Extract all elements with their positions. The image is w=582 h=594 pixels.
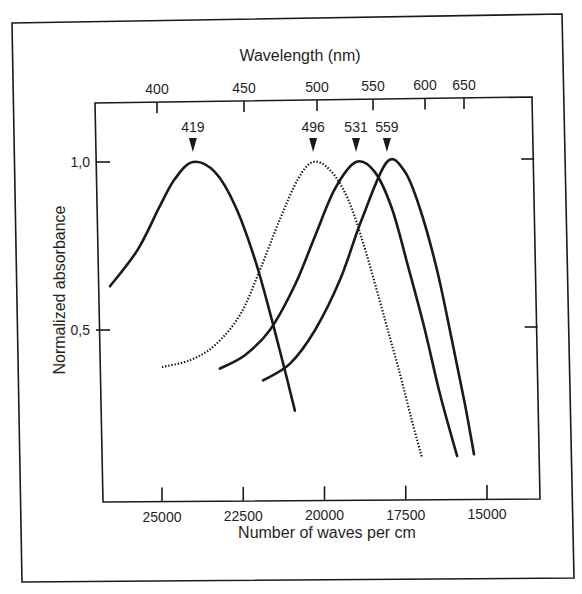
peak-arrow-icon (309, 138, 317, 152)
bottom-tick-label: 17500 (386, 507, 425, 523)
peak-label: 559 (375, 119, 399, 135)
top-tick-label: 650 (452, 77, 476, 93)
bottom-axis-title: Number of waves per cm (238, 524, 416, 541)
plot-frame (95, 97, 540, 502)
bottom-tick-label: 25000 (143, 509, 182, 525)
y-tick-label: 0,5 (71, 322, 91, 338)
top-tick-label: 500 (305, 79, 329, 95)
top-tick-label: 550 (361, 78, 385, 94)
peak-arrow-icon (352, 138, 360, 152)
absorbance-chart: Wavelength (nm) Number of waves per cm N… (0, 0, 582, 594)
outer-frame (12, 14, 574, 582)
bottom-tick-label: 22500 (224, 508, 263, 524)
bottom-tick-label: 15000 (468, 506, 507, 522)
curve-419 (110, 162, 295, 411)
top-tick-label: 600 (413, 77, 437, 93)
curve-531 (220, 161, 457, 456)
bottom-tick-label: 20000 (305, 507, 344, 523)
y-tick-label: 1,0 (71, 154, 91, 170)
top-axis-title: Wavelength (nm) (239, 47, 360, 64)
peak-label: 531 (344, 119, 368, 135)
top-tick-label: 450 (232, 80, 256, 96)
peak-arrow-icon (383, 138, 391, 152)
absorbance-curves (110, 159, 474, 458)
peak-arrow-icon (189, 138, 197, 152)
bottom-axis-ticks: 2500022500200001750015000 (143, 485, 507, 524)
curve-496 (162, 162, 422, 458)
top-axis-ticks: 400450500550600650 (145, 77, 476, 113)
top-tick-label: 400 (145, 81, 169, 97)
peak-label: 496 (301, 119, 325, 135)
peak-label: 419 (181, 119, 205, 135)
peak-markers: 419496531559 (181, 119, 399, 152)
y-axis-title: Normalized absorbance (51, 205, 68, 374)
